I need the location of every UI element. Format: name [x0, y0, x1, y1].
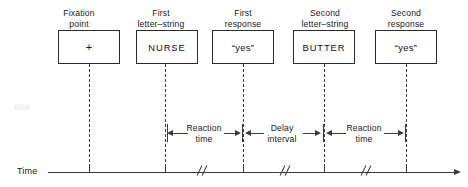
trial-sequence-diagram: Fixation point + First letter–string NUR…: [0, 0, 468, 187]
drop-line-second-response: [406, 64, 407, 172]
scan-artifact: [14, 104, 30, 110]
interval-arrow-right-reaction-time-1: [235, 130, 241, 136]
interval-label-reaction-time-1: Reaction time: [181, 123, 227, 144]
time-axis-line: [48, 172, 455, 173]
time-axis-arrow-icon: [454, 169, 461, 175]
interval-arm-right-reaction-time-2: [384, 133, 398, 134]
axis-tick-second-letter-string: [324, 166, 325, 173]
event-label-fixation-point: Fixation point: [49, 8, 109, 29]
event-label-second-response: Second response: [375, 8, 437, 29]
interval-arrow-right-delay-interval: [315, 130, 321, 136]
interval-cap-right-delay-interval: [323, 124, 324, 142]
drop-line-first-response: [243, 64, 244, 172]
axis-tick-first-response: [243, 166, 244, 173]
interval-arrow-right-reaction-time-2: [398, 130, 404, 136]
axis-tick-first-letter-string: [165, 166, 166, 173]
event-box-fixation-point: +: [58, 30, 120, 64]
interval-cap-right-reaction-time-1: [242, 124, 243, 142]
time-axis-label: Time: [17, 166, 37, 176]
event-label-first-response: First response: [212, 8, 274, 29]
interval-cap-right-reaction-time-2: [405, 124, 406, 142]
axis-break-mark-2b: [285, 165, 291, 175]
event-box-first-letter-string: NURSE: [136, 30, 198, 64]
drop-line-second-letter-string: [324, 64, 325, 172]
axis-break-mark-1b: [202, 165, 208, 175]
axis-break-mark-3b: [366, 165, 372, 175]
event-box-second-response: “yes”: [375, 30, 437, 64]
event-label-second-letter-string: Second letter–string: [287, 8, 363, 29]
event-label-first-letter-string: First letter–string: [125, 8, 197, 29]
interval-label-reaction-time-2: Reaction time: [341, 123, 387, 144]
axis-tick-second-response: [406, 166, 407, 173]
event-box-first-response: “yes”: [212, 30, 274, 64]
axis-tick-fixation-point: [89, 166, 90, 173]
drop-line-first-letter-string: [165, 64, 166, 172]
drop-line-fixation-point: [89, 64, 90, 172]
event-box-second-letter-string: BUTTER: [293, 30, 355, 64]
interval-label-delay-interval: Delay interval: [259, 123, 305, 144]
